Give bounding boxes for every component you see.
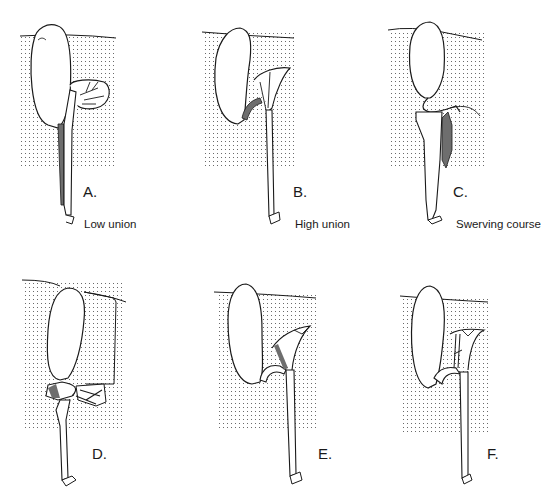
- panel-f-drawing: [370, 250, 560, 498]
- panel-e-drawing: [190, 250, 380, 498]
- panel-b: B. High union: [180, 0, 370, 250]
- panel-caption-a: Low union: [84, 218, 136, 230]
- panel-letter-b: B.: [293, 183, 307, 200]
- panel-letter-e: E.: [318, 445, 332, 462]
- panel-a-drawing: [0, 0, 190, 250]
- panel-letter-a: A.: [83, 183, 97, 200]
- panel-b-drawing: [180, 0, 370, 250]
- panel-e: E.: [190, 250, 380, 498]
- panel-letter-f: F.: [487, 445, 499, 462]
- common-bile-duct: [460, 372, 468, 478]
- panel-c: C. Swerving course: [370, 0, 560, 250]
- panel-letter-c: C.: [453, 183, 468, 200]
- panel-letter-d: D.: [92, 445, 107, 462]
- gallbladder: [410, 22, 445, 98]
- panel-caption-b: High union: [295, 218, 350, 230]
- panel-d: D.: [0, 250, 190, 498]
- panel-c-drawing: [370, 0, 560, 250]
- common-bile-duct: [286, 370, 296, 476]
- panel-f: F.: [370, 250, 560, 498]
- duodenal-papilla: [66, 215, 74, 224]
- common-bile-duct: [266, 110, 274, 216]
- common-bile-duct: [56, 400, 70, 480]
- panel-caption-c: Swerving course: [456, 218, 541, 230]
- panel-a: A. Low union: [0, 0, 190, 250]
